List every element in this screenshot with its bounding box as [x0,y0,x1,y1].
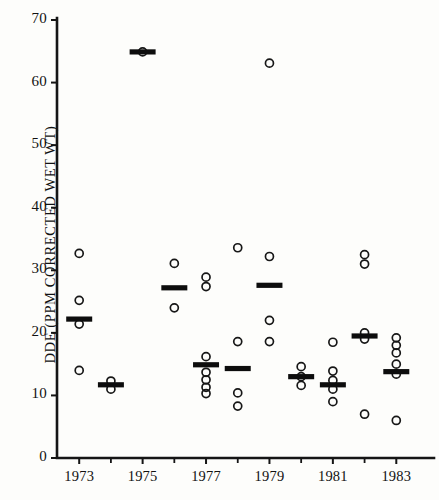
data-point-1978 [234,402,242,410]
data-point-1976 [170,259,178,267]
data-point-1978 [234,389,242,397]
data-point-1973 [75,249,83,257]
data-point-1979 [265,59,273,67]
data-point-1977 [202,353,210,361]
scatter-plot-figure: DDE (PPM CORRECTED WET WT) 0102030405060… [0,0,439,500]
data-point-1978 [234,244,242,252]
data-point-1981 [329,338,337,346]
mean-bars-group [66,52,409,385]
data-point-1979 [265,316,273,324]
data-point-1979 [265,253,273,261]
data-point-1980 [297,363,305,371]
data-point-1977 [202,273,210,281]
data-point-1979 [265,338,273,346]
data-point-1983 [392,360,400,368]
data-point-1983 [392,416,400,424]
plot-canvas [0,0,439,500]
data-point-1982 [361,410,369,418]
data-point-1976 [170,304,178,312]
data-point-1973 [75,366,83,374]
data-point-1973 [75,296,83,304]
data-point-1980 [297,381,305,389]
data-point-1982 [361,251,369,259]
data-point-1978 [234,338,242,346]
data-point-1977 [202,283,210,291]
data-point-1981 [329,398,337,406]
data-point-1981 [329,367,337,375]
data-point-1982 [361,260,369,268]
